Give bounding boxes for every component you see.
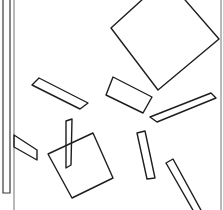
tilted-square bbox=[48, 133, 113, 198]
left-diagonal-strip bbox=[32, 78, 88, 109]
bottom-right-strip-long bbox=[166, 159, 202, 210]
right-diagonal-strip bbox=[150, 93, 216, 122]
left-edge-parallelogram bbox=[14, 135, 37, 160]
bottom-right-strip-short bbox=[137, 131, 155, 179]
shapes-canvas bbox=[0, 0, 223, 210]
large-square bbox=[111, 0, 219, 90]
left-panel-frame bbox=[3, 0, 10, 193]
small-rectangle bbox=[106, 77, 152, 113]
